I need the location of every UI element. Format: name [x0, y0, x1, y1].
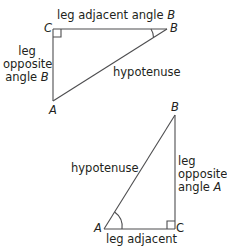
label-variable: A: [214, 180, 222, 194]
label-line: angle: [5, 70, 37, 84]
triangle-1-top-leg-label: leg adjacent angle B: [57, 9, 175, 22]
triangle-1-vertex-c: C: [44, 22, 52, 34]
triangles-figure: [0, 0, 227, 247]
triangle-1-right-angle-marker: [53, 29, 61, 37]
triangle-2-vertex-a: A: [94, 222, 102, 234]
triangle-2-right-angle-marker: [167, 221, 175, 229]
triangle-2-hypotenuse-label: hypotenuse: [71, 162, 139, 175]
label-text: leg adjacent angle: [57, 8, 164, 22]
triangle-2-bottom-leg-label: leg adjacent: [106, 233, 177, 246]
triangle-2-vertex-c: C: [176, 222, 184, 234]
triangle-1-vertex-b: B: [170, 22, 178, 34]
label-line: angle: [178, 180, 210, 194]
label-variable: B: [41, 70, 49, 84]
triangle-1-hypotenuse-label: hypotenuse: [113, 66, 181, 79]
triangle-1-left-leg-label: leg opposite angle B: [3, 45, 51, 84]
triangle-2-vertex-b: B: [171, 101, 179, 113]
label-variable: B: [167, 8, 175, 22]
triangle-2-right-leg-label: leg opposite angle A: [178, 155, 227, 194]
triangle-2-angle-a-arc: [115, 212, 123, 229]
triangle-1-angle-b-arc: [151, 29, 154, 38]
triangle-1-vertex-a: A: [49, 104, 57, 116]
